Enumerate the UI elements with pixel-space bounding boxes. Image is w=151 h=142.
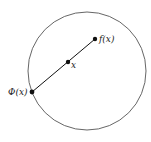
point-f-x <box>93 37 97 41</box>
point-x <box>66 60 70 64</box>
point-phi-x <box>30 90 35 95</box>
boundary-circle <box>28 12 146 130</box>
ray-segment <box>32 39 95 92</box>
diagram-canvas: f(x) x Φ(x) <box>0 0 151 142</box>
label-f-x: f(x) <box>98 34 115 44</box>
label-x: x <box>71 60 76 70</box>
label-phi-x: Φ(x) <box>8 87 28 97</box>
